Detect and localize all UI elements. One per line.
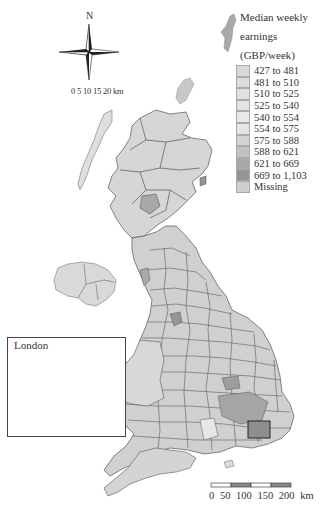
legend-swatch bbox=[236, 88, 250, 100]
region-outer-hebrides bbox=[78, 110, 112, 190]
legend-swatch bbox=[236, 111, 250, 123]
legend-item: 621 to 669 bbox=[236, 158, 328, 170]
london-inset: London bbox=[7, 337, 126, 437]
compass-rose-icon bbox=[59, 24, 119, 80]
legend-title-line2: earnings bbox=[240, 27, 328, 46]
legend-label: 575 to 588 bbox=[250, 135, 299, 146]
legend-label: 427 to 481 bbox=[250, 65, 299, 76]
legend-swatch bbox=[236, 181, 250, 193]
legend-label: 525 to 540 bbox=[250, 100, 299, 111]
legend-item: 510 to 525 bbox=[236, 88, 328, 100]
legend-item: 481 to 510 bbox=[236, 77, 328, 89]
legend: Median weekly earnings (GBP/week) 427 to… bbox=[236, 8, 328, 193]
legend-item: 554 to 575 bbox=[236, 123, 328, 135]
legend-label: 540 to 554 bbox=[250, 112, 299, 123]
region-scotland bbox=[108, 110, 212, 238]
legend-items: 427 to 481481 to 510510 to 525525 to 540… bbox=[236, 65, 328, 193]
legend-item: 525 to 540 bbox=[236, 100, 328, 112]
legend-label: 588 to 621 bbox=[250, 146, 299, 157]
compass-north-label: N bbox=[86, 10, 93, 21]
legend-swatch bbox=[236, 158, 250, 170]
legend-title-line3: (GBP/week) bbox=[240, 46, 328, 65]
legend-swatch bbox=[236, 146, 250, 158]
legend-item: 427 to 481 bbox=[236, 65, 328, 77]
legend-swatch bbox=[236, 65, 250, 77]
legend-label: 669 to 1,103 bbox=[250, 170, 307, 181]
region-aberdeen bbox=[200, 176, 206, 186]
legend-item: 540 to 554 bbox=[236, 111, 328, 123]
legend-swatch bbox=[236, 100, 250, 112]
london-highlight-box bbox=[248, 421, 270, 438]
legend-item: 575 to 588 bbox=[236, 135, 328, 147]
legend-label: 481 to 510 bbox=[250, 77, 299, 88]
legend-label: 554 to 575 bbox=[250, 123, 299, 134]
legend-title: Median weekly earnings (GBP/week) bbox=[236, 8, 328, 65]
inset-title: London bbox=[14, 339, 48, 351]
region-shetland bbox=[221, 14, 236, 52]
isle-of-wight bbox=[224, 460, 234, 468]
main-scale-labels: 0 50 100 150 200 km bbox=[209, 490, 314, 501]
legend-item: 588 to 621 bbox=[236, 146, 328, 158]
legend-label: 621 to 669 bbox=[250, 158, 299, 169]
legend-swatch bbox=[236, 77, 250, 89]
legend-label: Missing bbox=[250, 181, 288, 192]
legend-swatch bbox=[236, 123, 250, 135]
legend-label: 510 to 525 bbox=[250, 88, 299, 99]
region-northern-ireland bbox=[54, 262, 116, 306]
inset-scale-labels: 0 5 10 15 20 km bbox=[71, 86, 124, 96]
legend-swatch bbox=[236, 169, 250, 181]
main-scale-bar bbox=[211, 483, 291, 487]
legend-item: Missing bbox=[236, 181, 328, 193]
region-orkney bbox=[176, 78, 194, 104]
legend-swatch bbox=[236, 135, 250, 147]
legend-title-line1: Median weekly bbox=[240, 8, 328, 27]
legend-item: 669 to 1,103 bbox=[236, 169, 328, 181]
